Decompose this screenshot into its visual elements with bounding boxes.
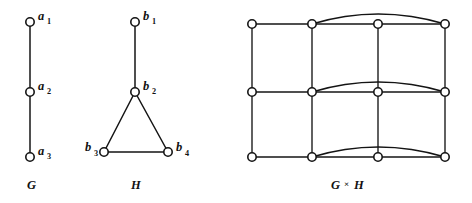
node-a1b3[interactable] [374, 20, 382, 28]
panel-product-vertical-edges [252, 24, 445, 157]
node-label-a1-subscript: 1 [47, 17, 51, 26]
node-a2b4[interactable] [441, 88, 449, 96]
panel-h: b 1 b 2 b 3 b 4 H [85, 9, 189, 192]
node-a2b2[interactable] [308, 88, 316, 96]
node-a3[interactable] [26, 153, 34, 161]
node-a1b2[interactable] [308, 20, 316, 28]
node-a3b2[interactable] [308, 153, 316, 161]
node-label-a3-subscript: 3 [47, 152, 51, 161]
node-label-b2: b [143, 79, 149, 93]
panel-g: a 1 a 2 a 3 G [26, 9, 51, 192]
node-label-b3: b [85, 140, 91, 154]
node-a2b1[interactable] [248, 88, 256, 96]
node-a3b3[interactable] [374, 153, 382, 161]
node-b1[interactable] [131, 18, 139, 26]
node-label-b4-subscript: 4 [185, 149, 189, 158]
graph-figure: a 1 a 2 a 3 G [0, 0, 472, 203]
edge-b2-b4 [135, 92, 168, 152]
node-label-a3: a [38, 144, 44, 158]
panel-h-labels: b 1 b 2 b 3 b 4 [85, 9, 189, 158]
edge-b2-b3 [104, 92, 135, 152]
panel-product-caption-right: H [353, 178, 365, 192]
panel-product-horizontal-edges [252, 24, 445, 157]
panel-g-labels: a 1 a 2 a 3 [38, 9, 51, 161]
node-a1b4[interactable] [441, 20, 449, 28]
node-a3b4[interactable] [441, 153, 449, 161]
node-label-a2: a [38, 79, 44, 93]
panel-product: G × H [248, 14, 449, 192]
node-b2[interactable] [131, 88, 139, 96]
node-a1b1[interactable] [248, 20, 256, 28]
panel-product-nodes [248, 20, 449, 161]
node-label-b4: b [176, 140, 182, 154]
node-b3[interactable] [100, 148, 108, 156]
node-label-b3-subscript: 3 [94, 149, 98, 158]
node-a1[interactable] [26, 18, 34, 26]
node-label-b1-subscript: 1 [152, 17, 156, 26]
node-a2b3[interactable] [374, 88, 382, 96]
panel-product-caption: G × H [331, 178, 365, 192]
node-label-b2-subscript: 2 [152, 87, 156, 96]
node-label-a2-subscript: 2 [47, 87, 51, 96]
node-a2[interactable] [26, 88, 34, 96]
panel-product-caption-left: G [331, 178, 340, 192]
graph-figure-svg: a 1 a 2 a 3 G [0, 0, 472, 203]
panel-h-edges [104, 22, 168, 152]
panel-h-nodes [100, 18, 172, 156]
panel-product-caption-operator: × [344, 179, 349, 189]
node-a3b1[interactable] [248, 153, 256, 161]
panel-g-caption: G [27, 178, 36, 192]
node-label-b1: b [143, 9, 149, 23]
node-b4[interactable] [164, 148, 172, 156]
node-label-a1: a [38, 9, 44, 23]
panel-h-caption: H [130, 178, 142, 192]
